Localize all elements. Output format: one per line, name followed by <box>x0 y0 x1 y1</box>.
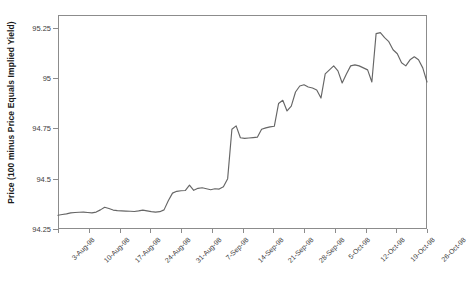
y-tick-mark <box>53 28 58 29</box>
x-tick-mark <box>396 229 397 233</box>
x-tick-mark <box>181 229 182 233</box>
y-tick-mark <box>53 229 58 230</box>
x-tick-label: 7-Sep-98 <box>224 236 249 261</box>
x-tick-label: 12-Oct-98 <box>379 236 406 263</box>
x-tick-label: 31-Aug-98 <box>195 236 223 264</box>
x-tick-label: 21-Sep-98 <box>287 236 315 264</box>
x-tick-mark <box>273 229 274 233</box>
x-tick-mark <box>58 229 59 233</box>
y-tick-label: 95.25 <box>5 23 51 32</box>
x-tick-mark <box>427 229 428 233</box>
x-tick-mark <box>212 229 213 233</box>
series-line-price <box>58 33 427 216</box>
x-tick-label-text: 19-Oct-98 <box>409 236 436 263</box>
y-tick-mark <box>53 179 58 180</box>
x-tick-label: 17-Aug-98 <box>133 236 161 264</box>
x-tick-label: 19-Oct-98 <box>409 236 436 263</box>
x-tick-label-text: 12-Oct-98 <box>379 236 406 263</box>
plot-svg <box>58 15 427 229</box>
x-tick-mark <box>89 229 90 233</box>
x-tick-mark <box>304 229 305 233</box>
y-axis-ticks: 94.2594.594.759595.25 <box>0 0 51 287</box>
x-tick-label: 10-Aug-98 <box>102 236 130 264</box>
x-tick-label-text: 17-Aug-98 <box>133 236 161 264</box>
y-tick-label: 94.5 <box>5 174 51 183</box>
x-tick-mark <box>150 229 151 233</box>
x-tick-label: 24-Aug-98 <box>164 236 192 264</box>
x-tick-label: 28-Sep-98 <box>318 236 346 264</box>
x-tick-label-text: 7-Sep-98 <box>224 236 249 261</box>
y-tick-label: 95 <box>5 73 51 82</box>
x-tick-label: 26-Oct-98 <box>440 236 467 263</box>
x-tick-label: 5-Oct-98 <box>347 236 371 260</box>
y-tick-mark <box>53 128 58 129</box>
x-tick-mark <box>243 229 244 233</box>
y-tick-label: 94.75 <box>5 124 51 133</box>
y-tick-mark <box>53 78 58 79</box>
x-tick-label-text: 24-Aug-98 <box>164 236 192 264</box>
x-tick-label-text: 3-Aug-98 <box>70 236 95 261</box>
x-tick-label-text: 26-Oct-98 <box>440 236 467 263</box>
y-tick-label: 94.25 <box>5 225 51 234</box>
x-tick-label-text: 31-Aug-98 <box>195 236 223 264</box>
x-tick-mark <box>366 229 367 233</box>
x-tick-label: 14-Sep-98 <box>256 236 284 264</box>
x-tick-label-text: 14-Sep-98 <box>256 236 284 264</box>
x-tick-label-text: 5-Oct-98 <box>347 236 371 260</box>
x-tick-label-text: 10-Aug-98 <box>102 236 130 264</box>
x-tick-mark <box>120 229 121 233</box>
x-tick-mark <box>335 229 336 233</box>
x-tick-label-text: 28-Sep-98 <box>318 236 346 264</box>
x-tick-label: 3-Aug-98 <box>70 236 95 261</box>
x-tick-label-text: 21-Sep-98 <box>287 236 315 264</box>
